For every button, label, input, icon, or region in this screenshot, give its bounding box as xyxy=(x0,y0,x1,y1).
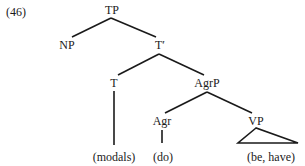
tree-branches xyxy=(0,0,305,166)
node-tp: TP xyxy=(105,4,119,16)
branch-agrp-vp xyxy=(207,92,252,113)
node-t-bar: T′ xyxy=(155,39,165,51)
leaf-modals: (modals) xyxy=(93,151,136,163)
branch-tbar-t xyxy=(118,54,159,75)
node-agr: Agr xyxy=(153,115,172,127)
node-t: T xyxy=(110,77,117,89)
vp-triangle xyxy=(238,128,298,143)
node-np: NP xyxy=(59,39,74,51)
leaf-do: (do) xyxy=(153,151,173,163)
node-vp: VP xyxy=(248,115,263,127)
branch-tp-np xyxy=(72,18,111,37)
branch-tbar-agrp xyxy=(159,54,204,75)
branch-tp-tbar xyxy=(111,18,156,37)
example-number: (46) xyxy=(6,6,26,18)
branch-agrp-agr xyxy=(165,92,207,113)
leaf-be-have: (be, have) xyxy=(247,151,295,163)
node-agrp: AgrP xyxy=(194,77,219,89)
